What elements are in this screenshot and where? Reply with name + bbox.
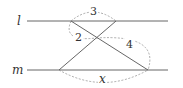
measure-top: 3 (90, 5, 97, 18)
measure-lower-right: 4 (126, 38, 133, 51)
segment-a-to-d (71, 21, 148, 70)
label-m: m (12, 63, 23, 77)
measure-bottom: x (99, 72, 106, 86)
measure-upper-left: 2 (75, 31, 82, 44)
label-l: l (17, 14, 21, 28)
segment-b-to-c (59, 21, 116, 70)
parallel-lines-diagram: l m 3 2 4 x (0, 0, 183, 88)
